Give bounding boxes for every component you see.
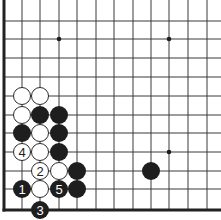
black-stone-move-3: 3	[31, 201, 49, 219]
black-stone	[68, 162, 86, 180]
black-stone	[50, 124, 68, 142]
go-board-svg: 42153	[0, 0, 221, 220]
white-stone	[14, 88, 31, 105]
move-number-label: 4	[18, 145, 25, 160]
move-number-label: 1	[18, 182, 25, 197]
black-stone	[50, 106, 68, 124]
white-stone-move-4: 4	[14, 144, 31, 161]
black-stone	[68, 180, 86, 198]
black-stone-move-1: 1	[13, 180, 31, 198]
white-stone	[32, 125, 49, 142]
white-stone	[32, 88, 49, 105]
move-number-label: 5	[55, 182, 62, 197]
white-stone	[51, 163, 68, 180]
star-point	[57, 37, 62, 42]
star-point	[167, 150, 172, 155]
black-stone	[13, 124, 31, 142]
black-stone-move-5: 5	[50, 180, 68, 198]
go-board: 42153	[0, 0, 221, 220]
move-number-label: 3	[36, 203, 43, 218]
stones: 42153	[13, 88, 160, 220]
black-stone	[31, 106, 49, 124]
star-point	[167, 37, 172, 42]
move-number-label: 2	[36, 164, 43, 179]
white-stone	[32, 181, 49, 198]
white-stone-move-2: 2	[32, 163, 49, 180]
white-stone	[14, 107, 31, 124]
black-stone	[142, 162, 160, 180]
black-stone	[50, 143, 68, 161]
white-stone	[32, 144, 49, 161]
